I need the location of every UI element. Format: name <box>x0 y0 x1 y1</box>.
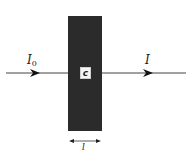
incident-intensity-label: I0 <box>27 54 37 68</box>
concentration-label: c <box>80 67 91 79</box>
transmitted-intensity-label: I <box>145 54 150 66</box>
path-length-right-arrow-icon <box>96 139 101 143</box>
absorption-diagram <box>0 0 191 151</box>
path-length-label: l <box>82 143 85 151</box>
incident-intensity-subscript: 0 <box>32 59 37 68</box>
path-length-left-arrow-icon <box>69 139 74 143</box>
